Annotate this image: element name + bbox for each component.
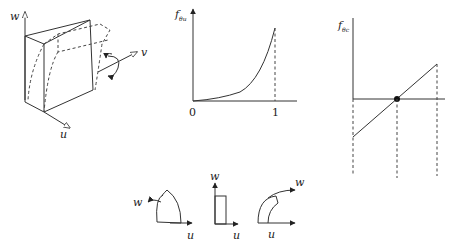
figure-canvas: w u v fθu 0 1 fθc xyxy=(0,0,452,248)
x-tick-0: 0 xyxy=(189,106,196,119)
w-label-middle: w xyxy=(210,170,220,183)
v-axis-label: v xyxy=(141,46,148,59)
u-axis-label: u xyxy=(60,128,67,141)
deformed-outline-inner xyxy=(58,34,108,52)
bottom-shape-middle: w u xyxy=(210,170,240,242)
deformed-curve-front xyxy=(44,52,58,112)
y-axis-label: fθc xyxy=(337,19,350,33)
w-axis-label: w xyxy=(10,10,20,23)
w-arrow-left xyxy=(148,200,161,202)
w-label-left: w xyxy=(133,196,143,209)
deformed-curve-left xyxy=(28,44,44,100)
u-label-right: u xyxy=(268,228,275,241)
bottom-shape-right: w u xyxy=(258,176,305,241)
y-axis-label: fθu xyxy=(174,8,187,22)
rectangle-segment xyxy=(215,196,226,224)
u-label-middle: u xyxy=(233,229,240,242)
curved-segment-left xyxy=(157,190,181,223)
block-front-face xyxy=(25,36,44,112)
block-top-edge xyxy=(44,20,90,44)
exponential-curve xyxy=(193,28,275,101)
u-axis-arrow xyxy=(44,112,70,128)
bottom-shape-left: w u xyxy=(133,190,194,242)
chart-f-theta-u: fθu 0 1 xyxy=(174,8,297,119)
w-label-right: w xyxy=(295,176,305,189)
u-label-left: u xyxy=(187,229,194,242)
curved-segment-right xyxy=(258,196,278,223)
chart-f-theta-c: fθc xyxy=(337,18,445,178)
deformed-outline-top xyxy=(44,24,110,90)
x-tick-1: 1 xyxy=(272,106,279,119)
block-3d-diagram: w u v xyxy=(10,10,148,141)
